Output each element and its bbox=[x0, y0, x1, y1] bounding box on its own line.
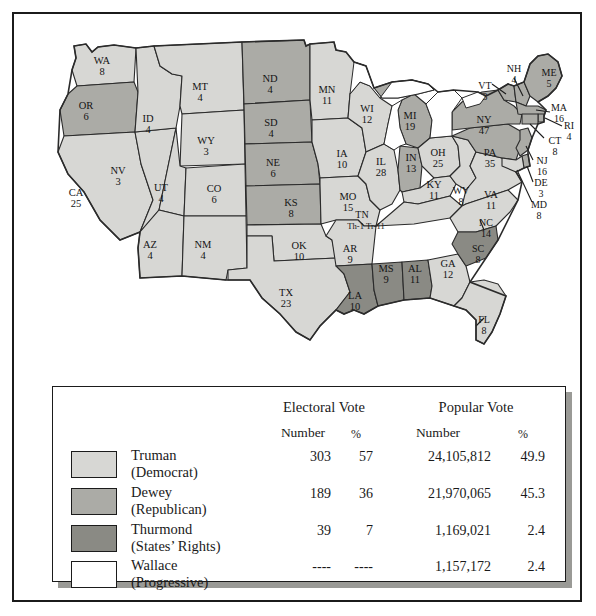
thurmond-popular-number: 1,169,021 bbox=[383, 523, 491, 539]
state-electoral-votes-MT: 4 bbox=[197, 92, 203, 103]
state-shape-NE[interactable] bbox=[245, 142, 320, 186]
legend-swatch-wallace bbox=[71, 561, 117, 588]
state-abbr-CO: CO bbox=[207, 183, 222, 194]
legend-row-dewey[interactable]: Dewey (Republican) 189 36 21,970,065 45.… bbox=[53, 486, 565, 526]
state-abbr-CT: CT bbox=[549, 135, 562, 146]
state-electoral-votes-AR: 9 bbox=[347, 254, 352, 265]
subheader-popular-number: Number bbox=[405, 425, 471, 441]
state-electoral-votes-TX: 23 bbox=[281, 298, 292, 309]
state-abbr-TX: TX bbox=[279, 287, 293, 298]
state-abbr-DE: DE bbox=[534, 177, 547, 188]
state-electoral-votes-ID: 4 bbox=[145, 124, 151, 135]
state-abbr-WI: WI bbox=[360, 103, 374, 114]
state-abbr-UT: UT bbox=[154, 182, 169, 193]
dewey-electoral-percent: 36 bbox=[339, 486, 373, 502]
state-electoral-votes-NJ: 16 bbox=[537, 166, 547, 177]
state-abbr-NC: NC bbox=[479, 217, 493, 228]
thurmond-popular-percent: 2.4 bbox=[501, 523, 545, 539]
state-electoral-votes-OH: 25 bbox=[433, 158, 444, 169]
state-abbr-MI: MI bbox=[404, 110, 417, 121]
state-electoral-votes-FL: 8 bbox=[482, 325, 487, 336]
state-abbr-IA: IA bbox=[336, 148, 347, 159]
legend-candidate-dewey: Dewey (Republican) bbox=[131, 484, 207, 517]
state-electoral-votes-MD: 8 bbox=[537, 210, 542, 221]
state-electoral-votes-MI: 19 bbox=[405, 121, 416, 132]
state-abbr-SD: SD bbox=[264, 117, 278, 128]
state-electoral-votes-CT: 8 bbox=[553, 146, 558, 157]
state-electoral-votes-WV: 8 bbox=[459, 196, 464, 207]
state-electoral-votes-MA: 16 bbox=[554, 113, 564, 124]
header-electoral-vote: Electoral Vote bbox=[275, 399, 373, 416]
state-shape-OR[interactable] bbox=[60, 82, 138, 136]
candidate-party-dewey: (Republican) bbox=[131, 501, 207, 518]
state-abbr-NV: NV bbox=[110, 165, 126, 176]
state-abbr-GA: GA bbox=[440, 258, 456, 269]
state-abbr-TN: TN bbox=[355, 209, 368, 220]
state-shape-SD[interactable] bbox=[244, 100, 312, 144]
state-electoral-votes-VA: 11 bbox=[486, 200, 496, 211]
state-shape-RI[interactable] bbox=[538, 114, 544, 122]
state-electoral-votes-IA: 10 bbox=[337, 159, 348, 170]
state-abbr-KY: KY bbox=[426, 179, 442, 190]
candidate-party-truman: (Democrat) bbox=[131, 464, 198, 481]
state-electoral-votes-MO: 15 bbox=[343, 202, 354, 213]
state-electoral-votes-CA: 25 bbox=[71, 198, 82, 209]
state-electoral-votes-RI: 4 bbox=[567, 131, 572, 142]
state-abbr-VA: VA bbox=[484, 189, 498, 200]
state-abbr-WV: WV bbox=[453, 185, 470, 196]
legend-row-wallace[interactable]: Wallace (Progressive) ---- ---- 1,157,17… bbox=[53, 539, 565, 579]
truman-popular-percent: 49.9 bbox=[501, 449, 545, 465]
subheader-electoral-percent: % bbox=[339, 427, 373, 442]
truman-popular-number: 24,105,812 bbox=[383, 449, 491, 465]
state-abbr-NJ: NJ bbox=[536, 155, 547, 166]
state-abbr-MN: MN bbox=[319, 84, 336, 95]
state-split-TN: Th-1 Tr-11 bbox=[347, 221, 384, 231]
state-abbr-FL: FL bbox=[478, 314, 490, 325]
state-abbr-RI: RI bbox=[564, 120, 574, 131]
dewey-popular-number: 21,970,065 bbox=[383, 486, 491, 502]
legend-panel: Electoral Vote Popular Vote Number % Num… bbox=[52, 386, 566, 582]
legend-candidate-wallace: Wallace (Progressive) bbox=[131, 557, 208, 590]
state-electoral-votes-OK: 10 bbox=[294, 251, 305, 262]
state-abbr-WA: WA bbox=[94, 55, 111, 66]
state-electoral-votes-PA: 35 bbox=[485, 158, 496, 169]
state-electoral-votes-GA: 12 bbox=[443, 269, 454, 280]
state-abbr-VT: VT bbox=[478, 80, 491, 91]
wallace-popular-number: 1,157,172 bbox=[383, 559, 491, 575]
state-electoral-votes-UT: 4 bbox=[158, 193, 164, 204]
thurmond-electoral-percent: 7 bbox=[339, 523, 373, 539]
candidate-name-dewey: Dewey bbox=[131, 484, 172, 500]
legend-row-truman[interactable]: Truman (Democrat) 303 57 24,105,812 49.9 bbox=[53, 449, 565, 489]
leader-line-DE bbox=[527, 166, 533, 182]
state-electoral-votes-IN: 13 bbox=[406, 163, 417, 174]
wallace-electoral-number: ---- bbox=[275, 559, 331, 575]
state-electoral-votes-MS: 9 bbox=[383, 274, 388, 285]
state-shape-CT[interactable] bbox=[522, 114, 538, 124]
state-electoral-votes-NH: 4 bbox=[512, 74, 517, 85]
state-abbr-PA: PA bbox=[484, 147, 497, 158]
subheader-electoral-number: Number bbox=[275, 425, 331, 441]
state-abbr-IL: IL bbox=[376, 156, 386, 167]
state-electoral-votes-AL: 11 bbox=[410, 274, 420, 285]
state-electoral-votes-NV: 3 bbox=[115, 176, 120, 187]
candidate-name-thurmond: Thurmond bbox=[131, 521, 192, 537]
truman-electoral-percent: 57 bbox=[339, 449, 373, 465]
state-abbr-ND: ND bbox=[262, 73, 278, 84]
us-map-svg: WA8OR6CA25NV3ID4MT4WY3UT4CO6AZ4NM4ND4SD4… bbox=[14, 14, 580, 372]
state-shape-ND[interactable] bbox=[242, 40, 310, 104]
state-electoral-votes-ND: 4 bbox=[267, 84, 273, 95]
truman-electoral-number: 303 bbox=[275, 449, 331, 465]
thurmond-electoral-number: 39 bbox=[275, 523, 331, 539]
state-electoral-votes-IL: 28 bbox=[376, 167, 387, 178]
state-abbr-NM: NM bbox=[195, 239, 213, 250]
state-abbr-LA: LA bbox=[348, 290, 362, 301]
state-electoral-votes-DE: 3 bbox=[539, 188, 544, 199]
state-electoral-votes-CO: 6 bbox=[211, 194, 216, 205]
state-abbr-AZ: AZ bbox=[143, 239, 157, 250]
state-abbr-MO: MO bbox=[340, 191, 357, 202]
state-electoral-votes-NY: 47 bbox=[479, 125, 490, 136]
legend-swatch-dewey bbox=[71, 488, 117, 515]
subheader-popular-percent: % bbox=[501, 427, 545, 442]
state-electoral-votes-NM: 4 bbox=[200, 250, 206, 261]
state-electoral-votes-MN: 11 bbox=[322, 95, 332, 106]
